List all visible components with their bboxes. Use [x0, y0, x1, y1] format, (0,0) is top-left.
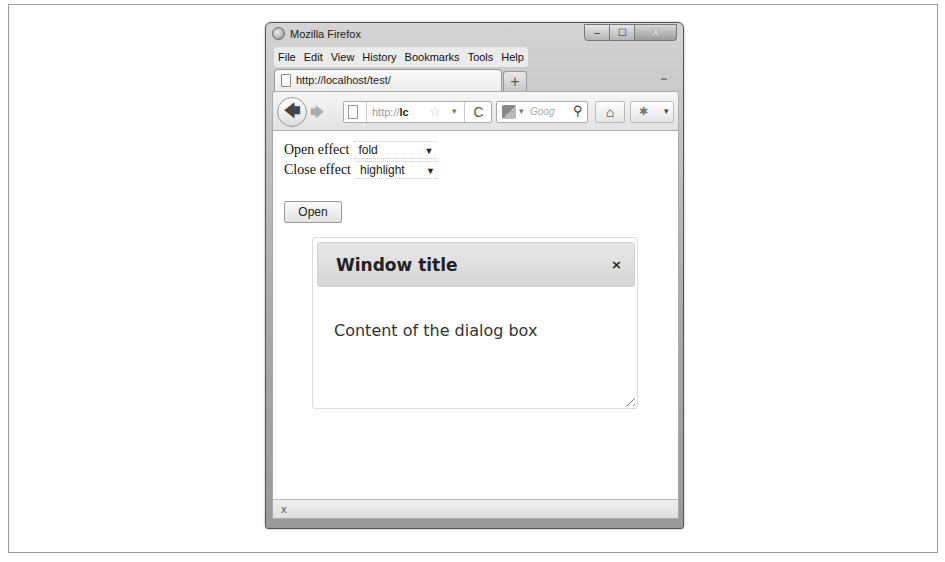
menu-bar: File Edit View History Bookmarks Tools H…	[274, 47, 528, 67]
open-effect-label: Open effect	[284, 142, 349, 158]
menu-tools[interactable]: Tools	[468, 51, 494, 63]
minimize-button[interactable]: –	[584, 24, 610, 41]
chevron-down-icon[interactable]: ▾	[664, 106, 669, 116]
close-effect-select[interactable]: highlight ▼	[356, 161, 438, 179]
search-engine-icon[interactable]	[502, 105, 516, 119]
firefox-icon	[272, 27, 285, 40]
url-bar[interactable]: http://lc ☆ ▾ C	[343, 101, 492, 123]
search-input[interactable]: Goog	[530, 106, 554, 117]
home-button[interactable]: ⌂	[595, 101, 625, 123]
url-input[interactable]: http://lc	[372, 106, 409, 118]
dialog-content: Content of the dialog box	[334, 321, 537, 340]
open-effect-row: Open effect fold ▼	[284, 141, 436, 159]
maximize-button[interactable]: ☐	[610, 24, 635, 41]
search-icon[interactable]: ⚲	[573, 103, 583, 118]
close-button[interactable]: X	[635, 24, 677, 41]
chevron-down-icon: ▼	[426, 163, 435, 179]
tab-localhost[interactable]: http://localhost/test/	[274, 69, 502, 91]
arrow-left-icon: 🡄	[284, 99, 301, 126]
chevron-down-icon[interactable]: ▾	[519, 106, 524, 116]
navigation-toolbar: 🡄 🡆 http://lc ☆ ▾ C ▾ Goog ⚲ ⌂ ✱ ▾	[272, 91, 679, 131]
menu-history[interactable]: History	[362, 51, 396, 63]
chevron-down-icon[interactable]: ▾	[452, 106, 457, 116]
close-effect-label: Close effect	[284, 162, 351, 178]
reload-button[interactable]: C	[464, 102, 492, 122]
back-button[interactable]: 🡄	[277, 97, 307, 127]
page-icon	[281, 74, 291, 87]
chevron-down-icon: ▼	[425, 143, 434, 159]
browser-window: Mozilla Firefox – ☐ X File Edit View His…	[265, 22, 684, 529]
tab-label: http://localhost/test/	[296, 74, 391, 86]
resize-handle-icon[interactable]	[623, 394, 635, 406]
menu-bookmarks[interactable]: Bookmarks	[405, 51, 460, 63]
menu-view[interactable]: View	[331, 51, 355, 63]
close-icon[interactable]: ×	[611, 257, 622, 272]
menu-help[interactable]: Help	[501, 51, 524, 63]
open-effect-select[interactable]: fold ▼	[354, 141, 436, 159]
page-content: Open effect fold ▼ Close effect highligh…	[272, 131, 679, 499]
forward-button[interactable]: 🡆	[307, 102, 327, 122]
menu-edit[interactable]: Edit	[304, 51, 323, 63]
divider	[366, 102, 367, 122]
window-controls: – ☐ X	[584, 24, 677, 41]
title-bar[interactable]: Mozilla Firefox – ☐ X	[266, 23, 683, 45]
open-button[interactable]: Open	[284, 201, 342, 223]
dialog-title: Window title	[336, 255, 458, 275]
status-bar: x	[272, 499, 679, 519]
page-icon	[348, 105, 358, 119]
dialog-titlebar[interactable]: Window title ×	[317, 242, 635, 287]
close-effect-row: Close effect highlight ▼	[284, 161, 438, 179]
home-icon: ⌂	[606, 104, 614, 120]
close-icon[interactable]: x	[281, 503, 287, 515]
new-tab-button[interactable]: +	[503, 71, 527, 91]
arrow-right-icon: 🡆	[310, 104, 324, 120]
dialog: Window title × Content of the dialog box	[312, 237, 638, 409]
puzzle-icon: ✱	[639, 105, 648, 118]
tab-list-indicator[interactable]	[661, 78, 667, 80]
menu-file[interactable]: File	[278, 51, 296, 63]
addon-button[interactable]: ✱ ▾	[630, 101, 674, 123]
search-bar[interactable]: ▾ Goog ⚲	[496, 101, 588, 123]
window-title: Mozilla Firefox	[290, 28, 361, 40]
star-icon[interactable]: ☆	[429, 104, 441, 119]
